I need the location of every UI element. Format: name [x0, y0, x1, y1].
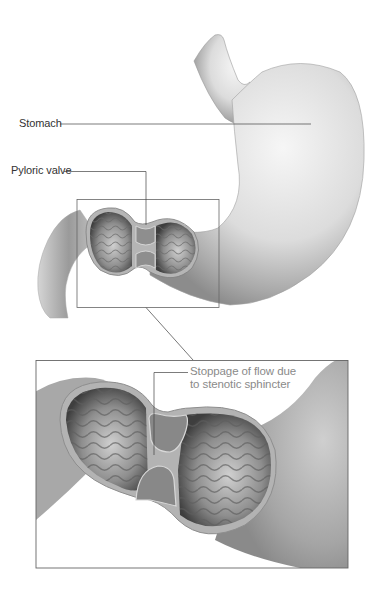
stomach-illustration: [38, 35, 364, 318]
label-stoppage-line-1: Stoppage of flow due: [190, 365, 310, 378]
label-stoppage-of-flow: Stoppage of flow due to stenotic sphinct…: [190, 365, 310, 391]
label-pyloric-valve: Pyloric valve: [11, 164, 71, 176]
label-stomach: Stomach: [19, 117, 62, 129]
pyloric-sphincter-upper: [136, 226, 155, 245]
zoom-connector-line: [146, 308, 193, 361]
label-stoppage-line-2: to stenotic sphincter: [190, 378, 310, 391]
stomach-anatomy-diagram: [0, 0, 376, 595]
